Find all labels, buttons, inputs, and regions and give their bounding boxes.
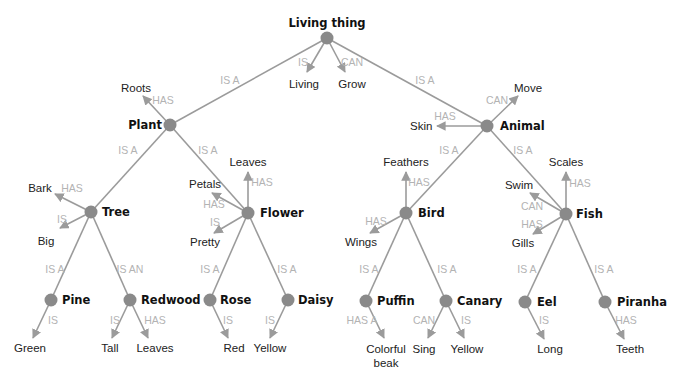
leaf-roots: Roots [121, 82, 151, 94]
node-fish: Fish [560, 207, 603, 221]
relation-label: CAN [521, 200, 543, 212]
relation-label: HAS [365, 215, 387, 227]
relation-label: IS [210, 216, 220, 228]
node-eel: Eel [519, 295, 557, 309]
relation-label: IS A [437, 263, 456, 275]
relation-label: IS [223, 314, 233, 326]
leaf-leaves2: Leaves [136, 342, 173, 354]
relation-label: CAN [486, 94, 508, 106]
edge-animal-bird [406, 126, 487, 213]
node-puffin: Puffin [360, 294, 415, 308]
leaf-colorful_beak-line2: beak [374, 357, 399, 369]
node-dot-icon [45, 294, 58, 307]
relation-label: HAS [521, 218, 543, 230]
relation-label: HAS [203, 198, 225, 210]
relation-label: IS A [594, 263, 613, 275]
relation-label: IS A [439, 144, 458, 156]
relation-label: IS [48, 314, 58, 326]
leaf-skin: Skin [410, 120, 432, 132]
node-label: Animal [500, 119, 545, 133]
relation-labels-layer: IS AIS AIS AIS AIS AIS AIS AIS ANIS AIS … [45, 56, 636, 326]
relation-label: IS A [200, 263, 219, 275]
edge-bird-canary [406, 213, 446, 301]
node-redwood: Redwood [124, 293, 201, 307]
leaf-red: Red [223, 342, 244, 354]
node-label: Rose [220, 293, 252, 307]
node-dot-icon [519, 296, 532, 309]
relation-label: IS [461, 314, 471, 326]
leaf-green: Green [14, 342, 46, 354]
node-piranha: Piranha [599, 295, 667, 309]
node-label: Living thing [288, 16, 365, 30]
relation-label: IS A [359, 263, 378, 275]
relation-label: IS AN [117, 263, 144, 275]
relation-label: HAS [251, 176, 273, 188]
leaf-petals: Petals [189, 178, 221, 190]
node-flower: Flower [242, 206, 305, 220]
node-dot-icon [560, 208, 573, 221]
node-label: Piranha [617, 295, 667, 309]
relation-label: HAS [615, 314, 637, 326]
node-dot-icon [204, 294, 217, 307]
node-dot-icon [85, 206, 98, 219]
relation-label: HAS [61, 182, 83, 194]
node-label: Puffin [377, 294, 415, 308]
relation-label: IS A [415, 74, 434, 86]
node-plant: Plant [128, 118, 176, 132]
relation-label: HAS A [347, 314, 378, 326]
relation-label: IS [110, 314, 120, 326]
relation-label: HAS [434, 110, 456, 122]
edge-tree-pine [51, 212, 91, 300]
node-dot-icon [164, 119, 177, 132]
leaf-pretty: Pretty [190, 236, 220, 248]
node-dot-icon [282, 294, 295, 307]
relation-label: IS A [198, 144, 217, 156]
node-label: Fish [576, 207, 603, 221]
relation-label: IS A [517, 263, 536, 275]
node-bird: Bird [400, 206, 445, 220]
leaf-sing: Sing [412, 343, 435, 355]
node-dot-icon [400, 207, 413, 220]
edge-plant-tree [91, 125, 170, 212]
leaf-living: Living [289, 78, 319, 90]
leaf-colorful_beak: Colorful [366, 343, 406, 355]
node-canary: Canary [440, 294, 503, 308]
relation-label: CAN [341, 56, 363, 68]
leaf-scales: Scales [549, 156, 584, 168]
leaf-wings: Wings [345, 236, 377, 248]
node-dot-icon [440, 295, 453, 308]
node-rose: Rose [204, 293, 252, 307]
node-label: Redwood [141, 293, 201, 307]
node-animal: Animal [481, 119, 545, 133]
relation-label: HAS [569, 177, 591, 189]
leaf-move: Move [514, 82, 542, 94]
node-dot-icon [599, 296, 612, 309]
leaf-big: Big [38, 235, 55, 247]
node-dot-icon [321, 32, 334, 45]
relation-label: CAN [413, 314, 435, 326]
node-label: Canary [457, 294, 503, 308]
relation-label: HAS [152, 94, 174, 106]
relation-label: IS A [513, 144, 532, 156]
relation-label: IS A [220, 74, 239, 86]
node-label: Pine [62, 293, 91, 307]
relation-label: HAS [144, 314, 166, 326]
leaf-yellow2: Yellow [451, 343, 485, 355]
semantic-network-diagram: IS AIS AIS AIS AIS AIS AIS AIS ANIS AIS … [0, 0, 676, 379]
node-pine: Pine [45, 293, 91, 307]
node-dot-icon [242, 207, 255, 220]
node-daisy: Daisy [282, 293, 335, 307]
node-dot-icon [124, 294, 137, 307]
node-dot-icon [360, 295, 373, 308]
edge-flower-daisy [248, 213, 288, 300]
leaf-yellow: Yellow [254, 342, 288, 354]
leaf-leaves: Leaves [229, 156, 266, 168]
leaf-swim: Swim [505, 179, 533, 191]
leaf-teeth: Teeth [616, 343, 644, 355]
node-label: Plant [128, 118, 162, 132]
relation-label: IS A [118, 144, 137, 156]
node-tree: Tree [85, 205, 131, 219]
leaf-long: Long [537, 343, 563, 355]
leaf-bark: Bark [28, 182, 52, 194]
relation-label: IS A [45, 263, 64, 275]
